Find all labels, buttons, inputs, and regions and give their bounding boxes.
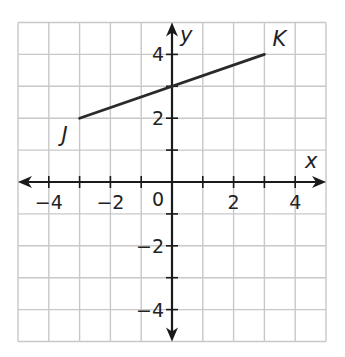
x-tick-label: 4 (289, 191, 301, 213)
y-tick-label: −2 (136, 235, 164, 257)
axes (18, 23, 326, 342)
x-tick-label: 2 (228, 191, 240, 213)
y-tick-label: −4 (136, 299, 164, 321)
x-axis-label: x (304, 149, 318, 173)
x-tick-label: −2 (96, 191, 124, 213)
coordinate-plane: x y 0 −4−22442−2−4JK (0, 0, 345, 357)
origin-label: 0 (152, 188, 164, 210)
x-tick-label: −4 (35, 191, 63, 213)
point-label-k: K (272, 27, 288, 51)
point-label-j: J (58, 123, 68, 147)
y-axis-label: y (179, 23, 193, 47)
y-tick-label: 4 (152, 43, 164, 65)
labels: x y 0 −4−22442−2−4JK (35, 23, 318, 321)
y-tick-label: 2 (152, 107, 164, 129)
